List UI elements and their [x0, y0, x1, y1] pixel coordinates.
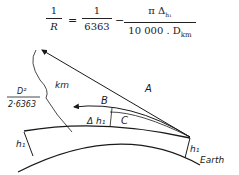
label-km: km	[55, 80, 69, 90]
ray-a	[42, 50, 190, 137]
elevated-arc	[24, 126, 190, 138]
earth-surface-arc	[18, 144, 200, 172]
delta-h-line	[110, 108, 112, 127]
label-d-denominator: 2·6363	[8, 100, 36, 109]
label-earth: Earth	[200, 155, 224, 165]
refraction-diagram: A B C Δ h₁ km D² 2·6363 h₁ h₁ Earth	[0, 0, 239, 175]
left-height-line	[24, 132, 33, 156]
label-b: B	[101, 95, 108, 106]
km-brace	[33, 50, 72, 132]
label-delta-h: Δ h₁	[86, 116, 106, 126]
label-h-left: h₁	[16, 139, 26, 149]
label-h-right: h₁	[190, 144, 200, 154]
label-d-squared: D²	[17, 87, 27, 96]
label-c: C	[121, 115, 128, 126]
label-a: A	[144, 83, 152, 94]
